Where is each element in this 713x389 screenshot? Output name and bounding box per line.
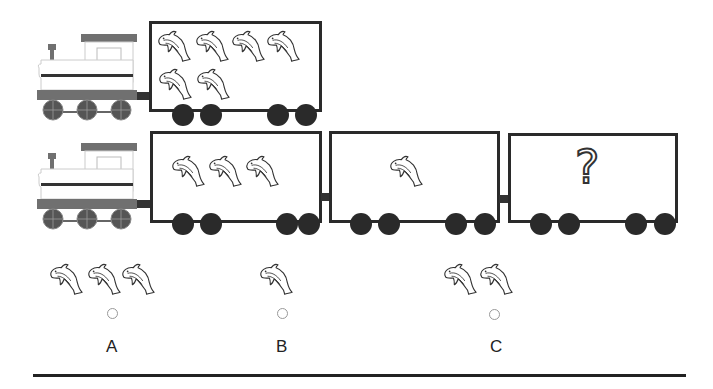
wheel: [654, 213, 676, 235]
dolphin-icon: [194, 29, 232, 65]
dolphin-icon: [195, 67, 233, 103]
dolphin-icon: [442, 262, 480, 298]
dolphin-icon: [170, 154, 208, 190]
option-b-label: B: [276, 337, 287, 357]
dolphin-icon: [156, 29, 194, 65]
dolphin-icon: [230, 29, 268, 65]
option-a-radio[interactable]: [107, 308, 118, 319]
locomotive-icon: [37, 143, 137, 233]
dolphin-icon: [86, 262, 124, 298]
wheel: [172, 104, 194, 126]
wheel: [530, 213, 552, 235]
wheel: [200, 213, 222, 235]
wheel: [276, 213, 298, 235]
dolphin-icon: [265, 29, 303, 65]
wheel: [625, 213, 647, 235]
train-1-car-1: [149, 21, 322, 112]
wheel: [295, 104, 317, 126]
option-c-label: C: [490, 337, 502, 357]
dolphin-icon: [207, 154, 245, 190]
train-2-car-2: [329, 131, 500, 223]
wheel: [172, 213, 194, 235]
option-a-label: A: [106, 337, 117, 357]
dolphin-icon: [258, 262, 296, 298]
dolphin-icon: [120, 262, 158, 298]
wheel: [267, 104, 289, 126]
question-mark: ?: [575, 140, 599, 194]
wheel: [350, 213, 372, 235]
wheel: [298, 213, 320, 235]
wheel: [445, 213, 467, 235]
dolphin-icon: [157, 67, 195, 103]
dolphin-icon: [244, 154, 282, 190]
wheel: [558, 213, 580, 235]
wheel: [378, 213, 400, 235]
dolphin-icon: [388, 154, 426, 190]
locomotive-icon: [37, 34, 137, 124]
option-c-radio[interactable]: [489, 309, 500, 320]
divider: [33, 374, 686, 377]
option-b-radio[interactable]: [277, 308, 288, 319]
train-2-car-1: [150, 131, 322, 223]
dolphin-icon: [478, 262, 516, 298]
coupler: [137, 200, 151, 208]
wheel: [474, 213, 496, 235]
train-2-car-3: ?: [508, 133, 678, 223]
wheel: [200, 104, 222, 126]
dolphin-icon: [48, 262, 86, 298]
